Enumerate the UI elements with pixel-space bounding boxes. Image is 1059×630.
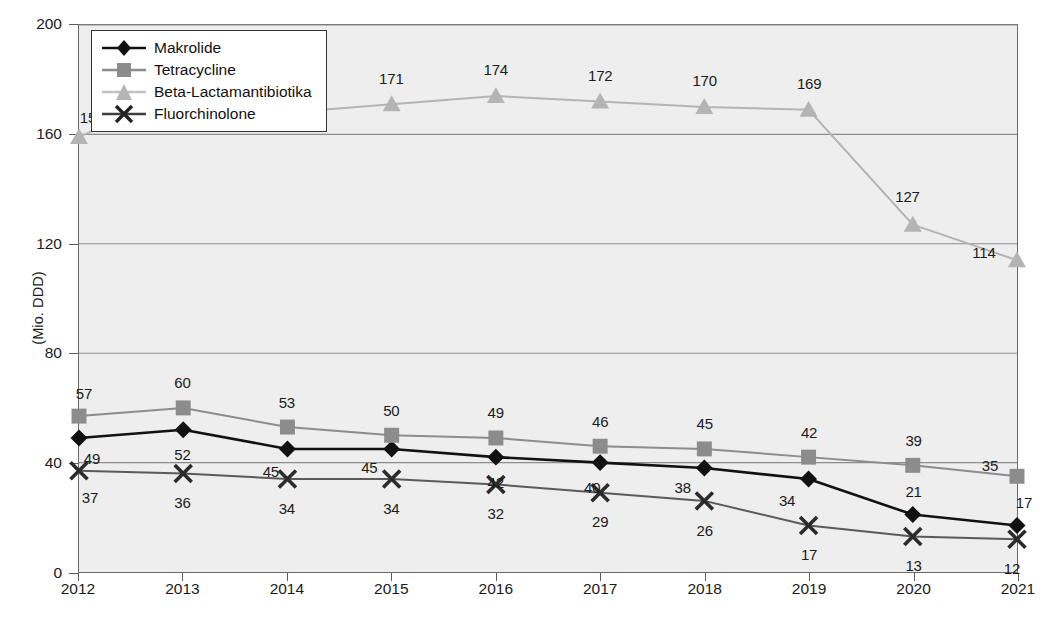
marker-diamond bbox=[175, 421, 192, 438]
marker-square bbox=[72, 409, 87, 424]
data-label-beta_lactam: 174 bbox=[484, 61, 508, 78]
marker-diamond bbox=[383, 440, 400, 457]
antibiotics-ddd-line-chart: (Mio. DDD) 04080120160200 20122013201420… bbox=[0, 0, 1059, 630]
data-label-beta_lactam: 172 bbox=[588, 66, 612, 83]
series-line bbox=[79, 408, 1017, 476]
y-tick-label: 120 bbox=[4, 235, 62, 253]
data-label-tetracycline: 57 bbox=[76, 384, 92, 401]
data-label-makrolide: 42 bbox=[488, 473, 504, 490]
x-tick-label: 2014 bbox=[252, 580, 322, 598]
chart-legend: Makrolide Tetracycline Beta-Lactamantibi… bbox=[91, 30, 327, 132]
data-label-fluorchinolone: 29 bbox=[592, 513, 608, 530]
x-tick-label: 2016 bbox=[461, 580, 531, 598]
data-label-makrolide: 52 bbox=[174, 446, 190, 463]
legend-label-makrolide: Makrolide bbox=[148, 39, 221, 57]
data-label-makrolide: 38 bbox=[675, 478, 691, 495]
legend-label-tetracycline: Tetracycline bbox=[148, 61, 236, 79]
data-label-beta_lactam: 169 bbox=[797, 75, 821, 92]
data-label-fluorchinolone: 37 bbox=[82, 489, 98, 506]
marker-square bbox=[488, 431, 503, 446]
x-tick-mark bbox=[391, 573, 392, 581]
data-label-makrolide: 21 bbox=[905, 483, 921, 500]
marker-diamond bbox=[592, 454, 609, 471]
x-tick-mark bbox=[182, 573, 183, 581]
data-label-makrolide: 45 bbox=[263, 463, 279, 480]
data-label-fluorchinolone: 13 bbox=[905, 557, 921, 574]
legend-item-makrolide: Makrolide bbox=[100, 37, 312, 59]
x-tick-label: 2012 bbox=[43, 580, 113, 598]
marker-diamond bbox=[279, 440, 296, 457]
series-line bbox=[79, 430, 1017, 526]
data-label-tetracycline: 46 bbox=[592, 412, 608, 429]
legend-item-tetracycline: Tetracycline bbox=[100, 59, 312, 81]
y-tick-label: 80 bbox=[4, 344, 62, 362]
marker-square bbox=[176, 400, 191, 415]
series-tetracycline bbox=[72, 400, 1025, 483]
legend-item-fluorchinolone: Fluorchinolone bbox=[100, 103, 312, 125]
legend-label-fluorchinolone: Fluorchinolone bbox=[148, 105, 256, 123]
data-label-fluorchinolone: 32 bbox=[488, 505, 504, 522]
data-label-beta_lactam: 170 bbox=[692, 72, 716, 89]
x-tick-label: 2021 bbox=[983, 580, 1053, 598]
x-tick-mark bbox=[496, 573, 497, 581]
marker-square bbox=[384, 428, 399, 443]
data-label-makrolide: 45 bbox=[361, 459, 377, 476]
data-label-fluorchinolone: 34 bbox=[383, 499, 399, 516]
marker-triangle bbox=[70, 128, 88, 144]
marker-square bbox=[1010, 469, 1025, 484]
y-tick-mark bbox=[69, 24, 78, 25]
data-label-tetracycline: 45 bbox=[697, 415, 713, 432]
fluorchinolone-cross-marker-icon bbox=[100, 103, 148, 125]
x-tick-label: 2015 bbox=[356, 580, 426, 598]
data-label-fluorchinolone: 12 bbox=[1004, 560, 1020, 577]
data-label-makrolide: 49 bbox=[84, 450, 100, 467]
legend-item-beta-lactamantibiotika: Beta-Lactamantibiotika bbox=[100, 81, 312, 103]
makrolide-diamond-marker-icon bbox=[100, 37, 148, 59]
data-label-makrolide: 34 bbox=[779, 491, 795, 508]
y-tick-label: 40 bbox=[4, 454, 62, 472]
x-tick-label: 2019 bbox=[774, 580, 844, 598]
legend-label-beta-lactamantibiotika: Beta-Lactamantibiotika bbox=[148, 83, 312, 101]
y-tick-mark bbox=[69, 573, 78, 574]
data-label-beta_lactam: 127 bbox=[895, 188, 919, 205]
marker-diamond bbox=[800, 471, 817, 488]
x-tick-label: 2013 bbox=[147, 580, 217, 598]
data-label-makrolide: 40 bbox=[584, 479, 600, 496]
y-tick-label: 160 bbox=[4, 125, 62, 143]
data-label-fluorchinolone: 17 bbox=[801, 546, 817, 563]
marker-square bbox=[905, 458, 920, 473]
x-tick-label: 2017 bbox=[565, 580, 635, 598]
x-tick-mark bbox=[809, 573, 810, 581]
data-label-tetracycline: 50 bbox=[383, 401, 399, 418]
series-line bbox=[79, 471, 1017, 539]
series-makrolide bbox=[71, 421, 1026, 534]
x-tick-mark bbox=[600, 573, 601, 581]
x-tick-mark bbox=[914, 573, 915, 581]
marker-square bbox=[280, 420, 295, 435]
data-label-beta_lactam: 114 bbox=[972, 244, 995, 261]
data-label-tetracycline: 35 bbox=[982, 456, 998, 473]
data-label-tetracycline: 39 bbox=[905, 431, 921, 448]
marker-diamond bbox=[904, 506, 921, 523]
x-tick-mark bbox=[287, 573, 288, 581]
data-label-fluorchinolone: 34 bbox=[279, 499, 295, 516]
marker-triangle bbox=[487, 87, 505, 103]
x-tick-mark bbox=[78, 573, 79, 581]
data-label-makrolide: 17 bbox=[1016, 494, 1032, 511]
marker-diamond bbox=[71, 430, 88, 447]
beta-lactam-triangle-marker-icon bbox=[100, 81, 148, 103]
data-label-tetracycline: 53 bbox=[279, 393, 295, 410]
y-tick-mark bbox=[69, 353, 78, 354]
marker-square bbox=[593, 439, 608, 454]
data-label-tetracycline: 42 bbox=[801, 423, 817, 440]
marker-square bbox=[801, 450, 816, 465]
data-label-fluorchinolone: 36 bbox=[174, 494, 190, 511]
y-tick-label: 200 bbox=[4, 15, 62, 33]
x-tick-mark bbox=[705, 573, 706, 581]
data-label-beta_lactam: 171 bbox=[379, 69, 403, 86]
data-label-tetracycline: 49 bbox=[488, 404, 504, 421]
data-label-fluorchinolone: 26 bbox=[697, 521, 713, 538]
marker-triangle bbox=[1008, 251, 1026, 267]
data-label-tetracycline: 60 bbox=[174, 374, 190, 391]
x-tick-label: 2018 bbox=[670, 580, 740, 598]
